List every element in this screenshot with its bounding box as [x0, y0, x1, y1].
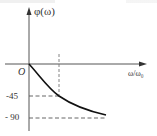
y-axis-label: φ(ω)	[34, 6, 55, 17]
phase-curve	[29, 64, 106, 115]
x-axis-label: ω/ω₀	[128, 70, 144, 78]
x-axis-arrow-icon	[139, 62, 147, 67]
y-axis-arrow-icon	[27, 7, 32, 15]
origin-label: O	[18, 67, 25, 77]
y-tick-minus-90: - 90	[5, 113, 19, 122]
y-tick-minus-45: -45	[6, 92, 18, 101]
